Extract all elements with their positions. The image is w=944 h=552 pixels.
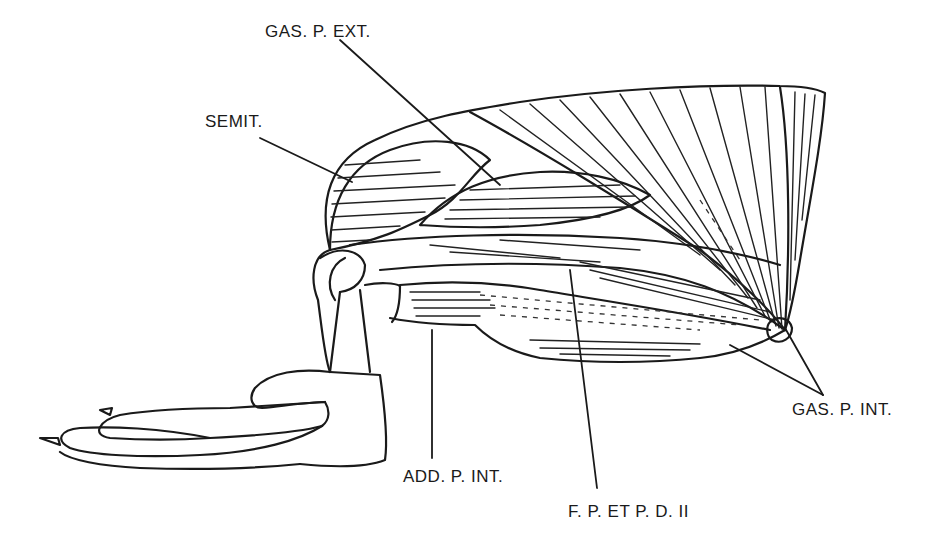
label-semit: SEMIT. [205,112,263,132]
label-gas-p-int: GAS. P. INT. [792,400,892,420]
leader-f-p-et-p-d-ii [570,270,597,488]
label-f-p-et-p-d-ii: F. P. ET P. D. II [568,502,689,522]
muscle-mass [326,86,825,362]
label-add-p-int: ADD. P. INT. [403,467,503,487]
semit-fibers [331,160,455,242]
foot-skeleton [40,250,400,469]
label-gas-p-ext: GAS. P. EXT. [265,22,371,42]
leader-semit [260,138,352,182]
